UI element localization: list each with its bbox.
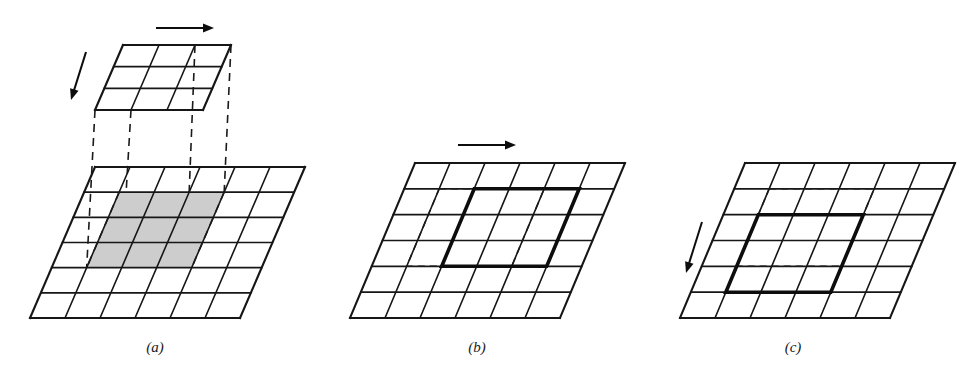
ghost-outline-c bbox=[737, 189, 875, 266]
down-left-arrow-head bbox=[685, 261, 693, 273]
bold-outline-b bbox=[442, 189, 580, 266]
down-left-arrow-shaft bbox=[74, 52, 86, 91]
down-left-arrow-head bbox=[70, 88, 78, 100]
figure-container: (a) (b) (c) bbox=[0, 0, 964, 366]
right-arrow-head bbox=[505, 141, 516, 150]
down-left-arrow-shaft bbox=[689, 222, 702, 264]
panel-a-caption: (a) bbox=[146, 339, 164, 356]
figure-canvas: (a) (b) (c) bbox=[0, 0, 964, 366]
panel-c-caption: (c) bbox=[785, 339, 802, 356]
panel-b bbox=[350, 141, 625, 318]
panel-c bbox=[680, 163, 955, 318]
ghost-outline-b bbox=[407, 189, 545, 266]
panel-a bbox=[30, 24, 305, 318]
panel-b-caption: (b) bbox=[468, 339, 486, 356]
grid-col-line bbox=[131, 45, 159, 110]
bold-outline-c bbox=[726, 215, 864, 293]
grid-col-line bbox=[95, 45, 123, 110]
right-arrow-head bbox=[203, 24, 214, 33]
projection-line bbox=[224, 45, 231, 192]
grid-col-line bbox=[203, 45, 231, 110]
grid-col-line bbox=[167, 45, 195, 110]
projection-line bbox=[87, 110, 95, 268]
shaded-region-a bbox=[87, 192, 225, 268]
